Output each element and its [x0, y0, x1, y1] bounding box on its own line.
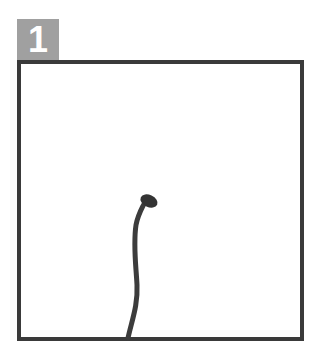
drawing-stroke-icon: [0, 0, 319, 358]
stroke-path: [128, 204, 144, 338]
